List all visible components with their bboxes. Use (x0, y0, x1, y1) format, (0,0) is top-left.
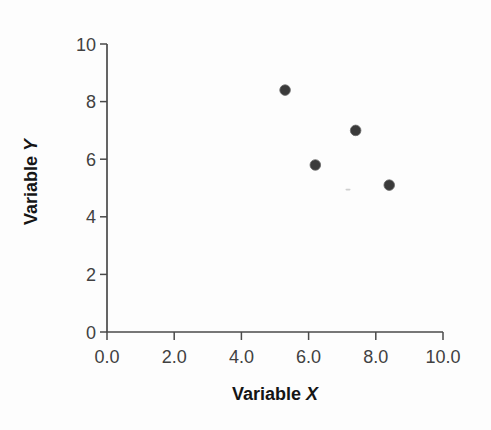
scatter-plot-figure: 02468100.02.04.06.08.010.0Variable XVari… (0, 0, 491, 430)
x-tick-label: 10.0 (425, 347, 460, 367)
x-axis-title: Variable X (232, 384, 319, 404)
data-point (350, 125, 361, 136)
y-tick-label: 4 (86, 207, 96, 227)
y-tick-label: 2 (86, 265, 96, 285)
y-tick-label: 0 (86, 323, 96, 343)
scan-artifact (346, 189, 351, 191)
y-axis-title: Variable Y (21, 137, 41, 225)
x-tick-label: 4.0 (229, 347, 254, 367)
y-tick-label: 8 (86, 92, 96, 112)
x-tick-label: 6.0 (296, 347, 321, 367)
data-point (384, 180, 395, 191)
x-tick-label: 8.0 (363, 347, 388, 367)
x-tick-label: 0.0 (94, 347, 119, 367)
x-tick-label: 2.0 (162, 347, 187, 367)
scatter-plot-svg: 02468100.02.04.06.08.010.0Variable XVari… (0, 0, 491, 430)
data-point (310, 160, 321, 171)
data-point (280, 85, 291, 96)
y-tick-label: 10 (76, 35, 96, 55)
y-tick-label: 6 (86, 150, 96, 170)
